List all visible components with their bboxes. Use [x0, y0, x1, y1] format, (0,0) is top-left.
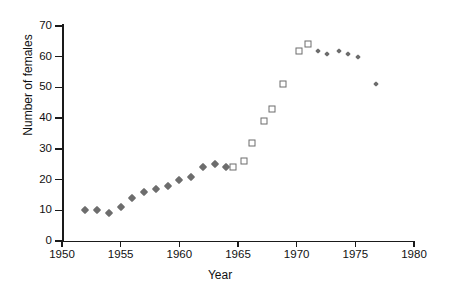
x-tick-1950 [61, 241, 62, 247]
y-tick-label-0: 0 [22, 235, 52, 247]
y-tick-10 [55, 210, 62, 211]
data-point [240, 158, 247, 165]
y-tick-70 [55, 25, 62, 26]
x-tick-1960 [179, 241, 180, 247]
x-tick-1965 [237, 241, 238, 247]
y-tick-60 [55, 56, 62, 57]
y-tick-label-10: 10 [22, 204, 52, 216]
x-tick-1970 [296, 241, 297, 247]
data-point [269, 105, 276, 112]
data-point [260, 118, 267, 125]
y-tick-label-20: 20 [22, 174, 52, 186]
y-tick-30 [55, 148, 62, 149]
x-tick-label-1975: 1975 [332, 249, 378, 261]
data-point [296, 47, 303, 54]
x-tick-label-1960: 1960 [156, 249, 202, 261]
data-point [279, 81, 286, 88]
x-tick-1980 [413, 241, 414, 247]
x-tick-label-1950: 1950 [39, 249, 85, 261]
data-point [230, 164, 237, 171]
x-tick-1955 [120, 241, 121, 247]
x-tick-label-1980: 1980 [391, 249, 437, 261]
x-tick-label-1970: 1970 [274, 249, 320, 261]
x-tick-label-1965: 1965 [215, 249, 261, 261]
data-point [249, 139, 256, 146]
chart-figure: 010203040506070 195019551960196519701975… [0, 0, 461, 291]
y-axis-title: Number of females [21, 15, 35, 155]
data-point [305, 41, 312, 48]
x-tick-label-1955: 1955 [98, 249, 144, 261]
y-tick-20 [55, 179, 62, 180]
x-axis-title: Year [160, 268, 280, 282]
plot-area [62, 26, 414, 241]
y-tick-40 [55, 117, 62, 118]
y-tick-50 [55, 87, 62, 88]
x-tick-1975 [355, 241, 356, 247]
